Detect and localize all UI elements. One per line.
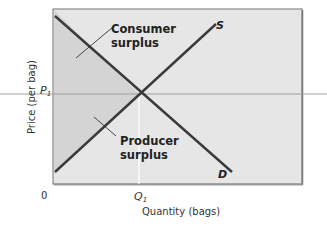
consumer-surplus-label-2: surplus — [111, 36, 159, 50]
demand-label: D — [218, 168, 227, 181]
producer-surplus-label-1: Producer — [120, 134, 179, 148]
surplus-diagram: Consumer surplus Producer surplus S D P1… — [0, 0, 327, 229]
x-axis-title: Quantity (bags) — [142, 206, 220, 217]
q1-label: Q1 — [134, 190, 147, 204]
origin-label: 0 — [41, 190, 47, 201]
producer-surplus-label-2: surplus — [120, 148, 168, 162]
p1-label: P1 — [40, 84, 51, 98]
consumer-surplus-label-1: Consumer — [111, 22, 176, 36]
supply-label: S — [216, 19, 224, 32]
y-axis-title: Price (per bag) — [26, 60, 37, 134]
